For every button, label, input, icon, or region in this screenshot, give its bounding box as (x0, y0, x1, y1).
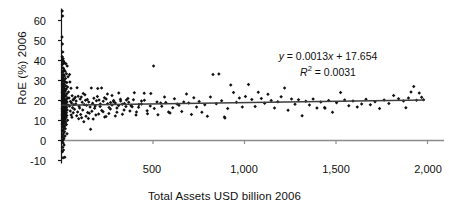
data-point (71, 111, 75, 115)
data-point (145, 109, 149, 113)
data-point (200, 111, 204, 115)
data-point (232, 91, 236, 95)
data-point (152, 64, 156, 68)
data-point (273, 106, 277, 110)
data-point (420, 96, 424, 100)
data-point (97, 98, 101, 102)
data-point (241, 105, 245, 109)
data-point (76, 110, 80, 114)
data-point (143, 99, 147, 103)
data-point (106, 92, 110, 96)
data-point (77, 117, 81, 121)
data-point (140, 99, 144, 103)
plot-area (0, 0, 449, 214)
data-point (92, 97, 96, 101)
data-point (404, 106, 408, 110)
data-point (250, 98, 254, 102)
data-point (93, 107, 97, 111)
data-point (339, 91, 343, 95)
chart-figure: RoE (%) 2006 Total Assets USD billion 20… (0, 0, 449, 214)
data-point (146, 112, 150, 116)
data-point (107, 112, 111, 116)
data-point (96, 95, 100, 99)
data-point (79, 113, 83, 117)
data-point (80, 116, 84, 120)
data-point (91, 117, 95, 121)
data-point (311, 97, 315, 101)
data-point (70, 94, 74, 98)
data-point (369, 103, 373, 107)
data-point (190, 113, 194, 117)
data-point (217, 72, 221, 76)
data-point (135, 110, 139, 114)
data-point (122, 108, 126, 112)
data-point (160, 105, 164, 109)
data-point (226, 107, 230, 111)
data-point (229, 83, 233, 87)
data-point (128, 109, 132, 113)
data-point (220, 99, 224, 103)
data-point (115, 111, 119, 115)
data-point (96, 87, 100, 91)
data-point (114, 114, 118, 118)
data-point (387, 102, 391, 106)
data-point (171, 106, 175, 110)
data-point (132, 98, 136, 102)
data-point (82, 120, 86, 124)
data-point (124, 105, 128, 109)
data-point (180, 110, 184, 114)
data-point (75, 114, 79, 118)
data-point (87, 117, 91, 121)
data-point (84, 115, 88, 119)
data-point (110, 94, 114, 98)
data-point (68, 80, 72, 84)
data-point (153, 107, 157, 111)
data-point (238, 96, 242, 100)
data-point (100, 86, 104, 90)
data-point (69, 109, 73, 113)
data-point (347, 104, 351, 108)
data-point (256, 91, 260, 95)
data-point (69, 87, 73, 91)
scatter-points (60, 9, 425, 159)
data-point (192, 96, 196, 100)
data-point (300, 114, 304, 118)
data-point (283, 86, 287, 90)
data-point (253, 105, 257, 109)
data-point (156, 113, 160, 117)
data-point (133, 91, 137, 95)
data-point (315, 106, 319, 110)
data-point (149, 92, 153, 96)
data-point (173, 97, 177, 101)
data-point (209, 95, 213, 99)
data-point (137, 106, 141, 110)
data-point (101, 100, 105, 104)
data-point (355, 105, 359, 109)
data-point (211, 73, 215, 77)
data-point (206, 115, 210, 119)
data-point (90, 86, 94, 90)
data-point (331, 111, 335, 115)
data-point (60, 35, 64, 39)
data-point (163, 95, 167, 99)
data-point (76, 95, 80, 99)
data-point (185, 92, 189, 96)
data-point (412, 85, 416, 89)
data-point (409, 90, 413, 94)
data-point (81, 108, 85, 112)
data-point (95, 99, 99, 103)
data-point (290, 97, 294, 101)
data-point (90, 110, 94, 114)
data-point (121, 113, 125, 117)
data-point (80, 101, 84, 105)
data-point (279, 95, 283, 99)
data-point (65, 132, 69, 136)
data-point (117, 91, 121, 95)
data-point (293, 103, 297, 107)
data-point (149, 104, 153, 108)
data-point (89, 128, 93, 132)
data-point (75, 86, 79, 90)
data-point (260, 97, 264, 101)
data-point (392, 94, 396, 98)
data-point (244, 95, 248, 99)
